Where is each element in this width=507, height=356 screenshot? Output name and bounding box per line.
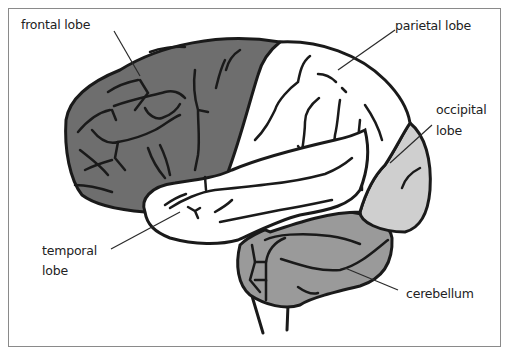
label-temporal-line1: temporal xyxy=(42,241,97,260)
label-temporal-line2: lobe xyxy=(42,261,68,280)
label-frontal-lobe: frontal lobe xyxy=(21,15,90,34)
label-parietal-lobe: parietal lobe xyxy=(395,16,471,35)
label-cerebellum: cerebellum xyxy=(406,284,474,303)
label-occipital-line1: occipital xyxy=(436,100,487,119)
label-occipital-line2: lobe xyxy=(436,121,462,140)
